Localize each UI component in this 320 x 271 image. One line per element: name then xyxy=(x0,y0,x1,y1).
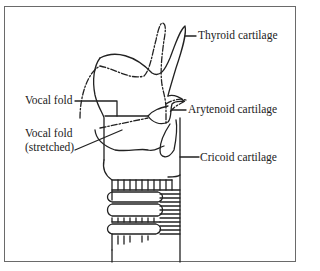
vocal-fold-stretched-line xyxy=(100,118,148,128)
leader-vocal-fold-stretched xyxy=(75,130,122,150)
label-thyroid-cartilage: Thyroid cartilage xyxy=(198,29,278,42)
label-vocal-fold-stretched-1: Vocal fold xyxy=(25,127,72,140)
label-cricoid-cartilage: Cricoid cartilage xyxy=(200,151,277,164)
label-vocal-fold-stretched-2: (stretched) xyxy=(25,141,74,154)
cricoid-cartilage xyxy=(160,120,177,157)
label-vocal-fold: Vocal fold xyxy=(25,94,72,107)
trachea xyxy=(108,175,181,262)
thyroid-cartilage-solid xyxy=(100,26,185,96)
label-arytenoid-cartilage: Arytenoid cartilage xyxy=(188,103,277,116)
